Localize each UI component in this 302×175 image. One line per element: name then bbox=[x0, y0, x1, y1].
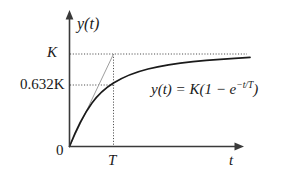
equation-prefix: y(t) = K(1 − e bbox=[151, 81, 236, 97]
equation-suffix: ) bbox=[253, 81, 258, 97]
response-curve bbox=[70, 57, 251, 146]
y-tick-label-0632K: 0.632K bbox=[20, 77, 65, 92]
figure-canvas: y(t) K 0.632K 0 T t y(t) = K(1 − e−t/T) bbox=[0, 0, 302, 175]
y-axis-arrowhead bbox=[66, 10, 74, 20]
x-axis-label: t bbox=[229, 153, 233, 168]
y-tick-label-K: K bbox=[47, 45, 57, 60]
x-tick-label-T: T bbox=[108, 153, 116, 168]
y-axis-label: y(t) bbox=[77, 16, 99, 32]
x-axis-arrowhead bbox=[235, 143, 245, 151]
origin-label: 0 bbox=[56, 143, 64, 158]
equation-exponent: −t/T bbox=[236, 80, 253, 90]
equation-annotation: y(t) = K(1 − e−t/T) bbox=[151, 82, 258, 97]
